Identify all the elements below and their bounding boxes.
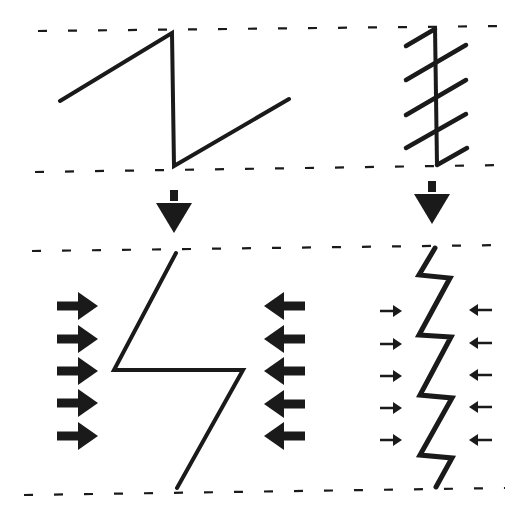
arrow-left-icon <box>264 357 305 385</box>
arrow-left-icon <box>264 390 305 418</box>
arrow-right-icon <box>57 292 98 320</box>
arrow-right-icon <box>57 422 98 450</box>
arrow-left-icon <box>264 325 305 353</box>
arrow-left-icon <box>469 304 492 316</box>
fold-shapes <box>60 27 467 488</box>
arrow-left-icon <box>469 369 492 381</box>
compression-diagram <box>0 0 519 518</box>
sawtooth-fold-hatch <box>437 148 467 165</box>
down-arrow-right-icon <box>414 181 450 224</box>
arrow-left-icon <box>469 401 492 413</box>
arrow-right-icon <box>380 338 402 350</box>
transition-arrows <box>156 181 450 233</box>
arrow-right-icon <box>380 305 402 317</box>
bottom-boundary-lower <box>24 488 505 495</box>
arrow-left-icon <box>264 422 305 450</box>
arrow-left-icon <box>469 434 492 446</box>
arrow-right-icon <box>57 389 98 417</box>
zigzag-fold-wide <box>114 253 243 488</box>
sawtooth-fold-wide <box>60 33 289 166</box>
arrow-left-icon <box>469 337 492 349</box>
arrow-right-icon <box>57 357 98 385</box>
top-boundary-lower <box>35 165 505 172</box>
arrow-right-icon <box>380 370 402 382</box>
dashed-boundary-lines <box>24 26 505 495</box>
zigzag-fold-narrow <box>419 248 452 487</box>
arrow-right-icon <box>380 402 402 414</box>
sawtooth-fold-hatch <box>406 29 435 46</box>
down-arrow-left-icon <box>156 190 192 233</box>
arrow-left-icon <box>264 292 305 320</box>
arrow-right-icon <box>380 434 402 446</box>
arrow-right-icon <box>57 325 98 353</box>
